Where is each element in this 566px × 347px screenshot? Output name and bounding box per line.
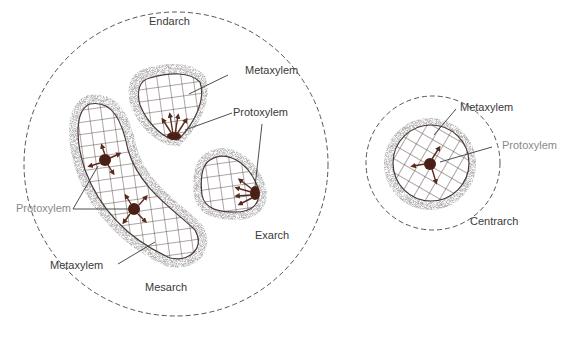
label-metaxylem-top: Metaxylem: [245, 65, 298, 76]
protoxylem-mesarch-1: [99, 154, 111, 166]
label-exarch: Exarch: [255, 230, 289, 241]
label-protoxylem-right: Protoxylem: [502, 140, 557, 151]
xylem-diagram: Endarch Metaxylem Protoxylem Protoxylem …: [0, 0, 566, 347]
label-centrarch: Centrarch: [470, 216, 518, 227]
label-metaxylem-right: Metaxylem: [460, 102, 513, 113]
label-metaxylem-bottom: Metaxylem: [50, 260, 103, 271]
centrarch-bundle: [393, 125, 469, 201]
protoxylem-mesarch-2: [128, 203, 140, 215]
label-endarch: Endarch: [149, 16, 190, 27]
protoxylem-endarch: [167, 132, 181, 140]
label-protoxylem-top: Protoxylem: [233, 107, 288, 118]
protoxylem-centrarch: [424, 158, 436, 170]
label-mesarch: Mesarch: [145, 282, 187, 293]
label-protoxylem-left: Protoxylem: [16, 203, 71, 214]
